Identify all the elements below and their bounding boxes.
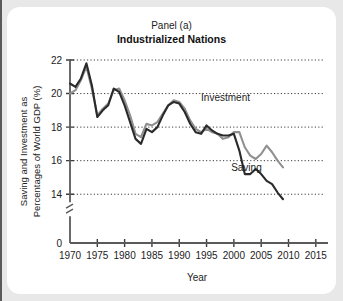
- plot-area: 14161820220 1970197519801985199019952000…: [7, 7, 336, 294]
- y-tick-label: 14: [51, 189, 63, 200]
- x-tick-label: 1975: [86, 250, 109, 261]
- x-tick-label: 2015: [305, 250, 328, 261]
- series-line-investment: [70, 67, 283, 168]
- x-tick-label: 1990: [168, 250, 191, 261]
- x-tick-label: 1970: [59, 250, 82, 261]
- y-axis-break-icon: [66, 204, 73, 213]
- page-left-rule: [0, 0, 2, 301]
- x-tick-label: 2010: [277, 250, 300, 261]
- gridlines: [70, 60, 324, 194]
- data-series: [70, 63, 283, 199]
- x-tick-label: 1995: [195, 250, 218, 261]
- y-axis-zero-label: 0: [56, 238, 62, 249]
- chart-figure: Panel (a) Industrialized Nations 1416182…: [7, 7, 336, 294]
- y-tick-label: 16: [51, 155, 63, 166]
- x-tick-label: 1980: [113, 250, 136, 261]
- x-tick-label: 2000: [223, 250, 246, 261]
- figure-card: Panel (a) Industrialized Nations 1416182…: [7, 7, 336, 294]
- y-tick-label: 22: [51, 55, 63, 66]
- y-tick-label: 20: [51, 88, 63, 99]
- y-tick-label: 18: [51, 122, 63, 133]
- y-axis-title-line-1: Saving and Investment as: [18, 97, 29, 207]
- x-tick-label: 1985: [141, 250, 164, 261]
- x-axis-title: Year: [187, 272, 208, 283]
- series-label-investment: Investment: [201, 92, 250, 103]
- axis-lines: [66, 60, 328, 243]
- x-tick-label: 2005: [250, 250, 273, 261]
- series-label-saving: Saving: [231, 162, 262, 173]
- y-axis-title-line-2: Percentages of World GDP (%): [31, 86, 42, 218]
- series-line-saving: [70, 63, 283, 199]
